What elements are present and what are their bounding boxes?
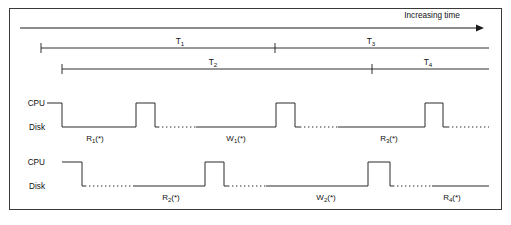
operation-label-w2: W2(*) <box>316 193 336 203</box>
process-two-trace-start <box>62 162 85 186</box>
span-label-t2: T2 <box>209 57 218 68</box>
operation-label-r3: R3(*) <box>380 134 398 144</box>
span-label-t4: T4 <box>424 57 433 68</box>
process-two-trace-segment-3 <box>266 162 393 186</box>
span-row-two: T2 T4 <box>62 57 489 74</box>
process-two-trace-segment-2 <box>133 162 228 186</box>
operation-label-r1: R1(*) <box>86 134 104 144</box>
process-one-waveform: CPU Disk R1(*) W1(*) R3(*) <box>28 99 489 144</box>
process-two-disk-row-label: Disk <box>29 182 46 191</box>
diagram-canvas: Increasing time T1 T3 T2 T4 CPU Disk <box>0 0 511 225</box>
timing-diagram-figure: Increasing time T1 T3 T2 T4 CPU Disk <box>0 0 511 225</box>
span-row-one: T1 T3 <box>41 36 489 53</box>
process-one-cpu-row-label: CPU <box>28 99 45 108</box>
time-axis-group: Increasing time <box>20 11 484 32</box>
process-one-disk-row-label: Disk <box>29 123 46 132</box>
operation-label-r4: R4(*) <box>443 193 461 203</box>
process-one-trace-start <box>47 103 158 127</box>
span-label-t3: T3 <box>367 36 376 47</box>
process-two-cpu-row-label: CPU <box>28 158 45 167</box>
operation-label-w1: W1(*) <box>226 134 246 144</box>
increasing-time-caption: Increasing time <box>404 11 460 20</box>
process-two-waveform: CPU Disk R2(*) W2(*) R4(*) <box>28 158 489 203</box>
span-label-t1: T1 <box>176 36 185 47</box>
operation-label-r2: R2(*) <box>162 193 180 203</box>
process-one-trace-segment-2 <box>196 103 300 127</box>
time-axis-arrow-icon <box>476 25 484 32</box>
figure-border <box>10 9 502 210</box>
process-one-trace-segment-3 <box>338 103 448 127</box>
